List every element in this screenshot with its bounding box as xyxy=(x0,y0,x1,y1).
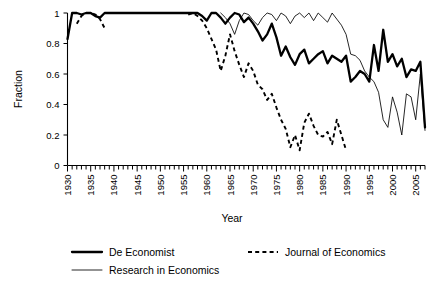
x-tick-label: 2005 xyxy=(410,175,421,196)
x-tick-label: 1935 xyxy=(85,175,96,196)
legend-item: Journal of Economics xyxy=(248,246,385,258)
x-axis-title: Year xyxy=(221,212,243,224)
y-axis-title: Fraction xyxy=(12,70,24,108)
x-axis: 1930193519401945195019551960196519701975… xyxy=(62,166,425,225)
legend-label: Journal of Economics xyxy=(285,246,385,258)
x-tick-label: 1995 xyxy=(364,175,375,196)
x-tick-label: 1950 xyxy=(155,175,166,196)
x-tick-label: 1965 xyxy=(225,175,236,196)
x-tick-label: 2000 xyxy=(387,175,398,196)
x-tick-label: 1960 xyxy=(201,175,212,196)
y-axis: 00.20.40.60.81 Fraction xyxy=(12,8,68,172)
x-tick-label: 1955 xyxy=(178,175,189,196)
x-tick-label: 1985 xyxy=(317,175,328,196)
x-axis-minor-ticks xyxy=(68,166,426,172)
legend-item: Research in Economics xyxy=(72,264,219,276)
line-chart: 00.20.40.60.81 Fraction 1930193519401945… xyxy=(0,0,440,287)
series-line-research-in-economics xyxy=(221,13,425,135)
y-axis-tick-labels: 00.20.40.60.81 xyxy=(46,8,59,172)
x-axis-tick-labels: 1930193519401945195019551960196519701975… xyxy=(62,175,421,196)
y-tick-label: 0.4 xyxy=(46,99,59,110)
x-tick-label: 1970 xyxy=(248,175,259,196)
data-series-group xyxy=(68,13,426,150)
chart-legend: De EconomistJournal of EconomicsResearch… xyxy=(72,246,385,276)
y-tick-label: 1 xyxy=(54,8,59,19)
x-tick-label: 1980 xyxy=(294,175,305,196)
x-tick-label: 1990 xyxy=(341,175,352,196)
legend-label: De Economist xyxy=(109,246,174,258)
y-tick-label: 0.8 xyxy=(46,38,59,49)
legend-label: Research in Economics xyxy=(109,264,219,276)
series-line-journal-of-economics xyxy=(77,13,346,150)
y-tick-label: 0 xyxy=(54,160,59,171)
x-tick-label: 1940 xyxy=(108,175,119,196)
y-tick-label: 0.6 xyxy=(46,69,59,80)
legend-item: De Economist xyxy=(72,246,174,258)
y-tick-label: 0.2 xyxy=(46,130,59,141)
x-tick-label: 1945 xyxy=(132,175,143,196)
x-tick-label: 1930 xyxy=(62,175,73,196)
chart-figure: 00.20.40.60.81 Fraction 1930193519401945… xyxy=(0,0,440,287)
x-tick-label: 1975 xyxy=(271,175,282,196)
